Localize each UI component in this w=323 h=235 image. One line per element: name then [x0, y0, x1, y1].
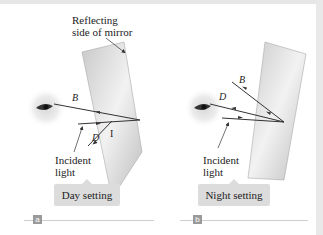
panel-tag-b: b	[193, 215, 202, 224]
incident-label-a-line1: Incident	[55, 154, 91, 166]
day-setting-label: Day setting	[54, 184, 120, 206]
incident-label-a-line2: light	[55, 166, 75, 178]
mirror-b	[248, 42, 306, 180]
ray-label-b-b: B	[239, 74, 245, 86]
caption-rule-a	[24, 220, 154, 221]
incident-label-b-line1: Incident	[203, 154, 239, 166]
panel-tag-a: a	[33, 215, 42, 224]
mirror-diagram	[0, 0, 323, 235]
night-setting-label: Night setting	[198, 184, 270, 206]
mirror-label-line2: side of mirror	[72, 26, 132, 38]
ray-label-i-a: I	[110, 128, 113, 140]
mirror-label-line1: Reflecting	[72, 14, 118, 26]
ray-label-d-b: D	[219, 91, 226, 103]
ray-label-d-a: D	[92, 132, 99, 144]
incident-label-b-line2: light	[203, 166, 223, 178]
ray-label-b-a: B	[72, 92, 78, 104]
